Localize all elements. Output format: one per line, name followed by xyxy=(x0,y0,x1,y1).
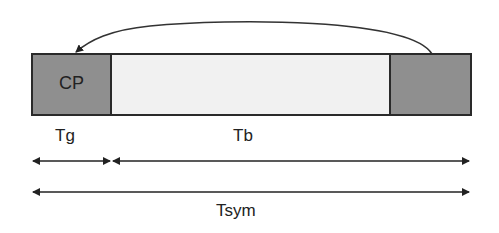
useful-symbol-block xyxy=(111,54,390,115)
ofdm-symbol-diagram xyxy=(0,0,499,233)
tg-label: Tg xyxy=(55,126,75,146)
cyclic-copy-arrow xyxy=(76,22,432,54)
cp-label: CP xyxy=(59,73,84,94)
symbol-tail-block xyxy=(390,54,471,115)
tb-label: Tb xyxy=(233,126,253,146)
tsym-label: Tsym xyxy=(216,201,256,221)
